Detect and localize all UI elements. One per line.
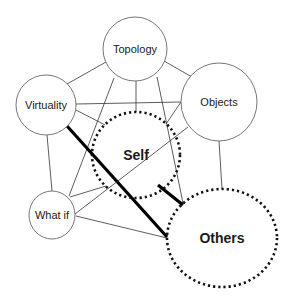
edge-whatif-self: [70, 186, 106, 197]
edge-topology-virtuality: [67, 62, 106, 84]
nodes: TopologyVirtualityObjectsWhat ifSelfOthe…: [16, 17, 277, 287]
others-label: Others: [199, 230, 244, 246]
edge-self-others: [158, 185, 183, 205]
node-virtuality: Virtuality: [16, 75, 76, 135]
whatif-label: What if: [35, 209, 70, 221]
node-whatif: What if: [29, 191, 75, 239]
objects-label: Objects: [200, 96, 238, 108]
self-label: Self: [123, 147, 149, 163]
edge-virtuality-objects: [76, 102, 181, 104]
concept-diagram: TopologyVirtualityObjectsWhat ifSelfOthe…: [0, 0, 292, 301]
edge-whatif-others: [76, 216, 167, 238]
node-topology: Topology: [103, 17, 167, 81]
node-objects: Objects: [181, 63, 257, 141]
edge-objects-whatif: [75, 127, 188, 214]
edge-virtuality-whatif: [47, 135, 52, 191]
virtuality-label: Virtuality: [25, 99, 67, 111]
edge-objects-others: [219, 141, 222, 189]
edge-topology-others: [157, 77, 183, 203]
edge-topology-objects: [164, 61, 192, 77]
edge-objects-self: [166, 102, 181, 124]
topology-label: Topology: [113, 43, 158, 55]
